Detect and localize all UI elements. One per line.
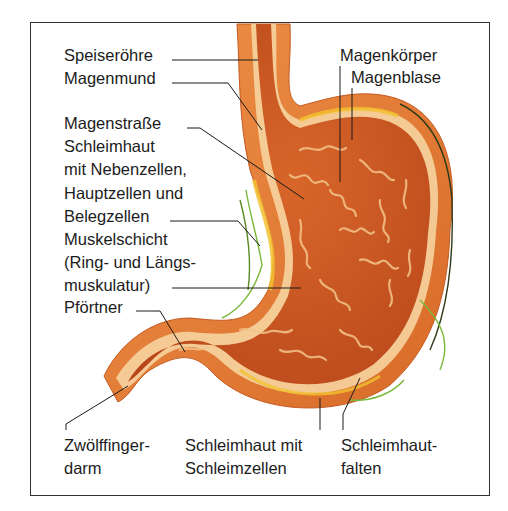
label-schleimhaut-line4: Belegzellen [64, 206, 149, 226]
label-muskel-line2: (Ring- und Längs- [64, 252, 196, 272]
label-zwoelffinger-line1: Zwölffinger- [64, 435, 150, 455]
label-schleimzellen-line1: Schleimhaut mit [185, 435, 302, 455]
label-schleimhaut-line1: Schleimhaut [64, 136, 155, 156]
label-pfoertner: Pförtner [64, 297, 123, 317]
label-muskel-line3: muskulatur) [64, 275, 150, 295]
label-schleimhaut-line2: mit Nebenzellen, [64, 159, 187, 179]
label-zwoelffinger-line2: darm [64, 458, 102, 478]
label-falten-line1: Schleimhaut- [341, 435, 437, 455]
label-schleimzellen-line2: Schleimzellen [185, 458, 287, 478]
label-magenmund: Magenmund [64, 68, 156, 88]
label-magenkoerper: Magenkörper [340, 45, 437, 65]
label-magenstrasse: Magenstraße [64, 113, 161, 133]
label-muskel-line1: Muskelschicht [64, 229, 168, 249]
label-falten-line2: falten [341, 458, 381, 478]
label-speiseroehre: Speiseröhre [64, 45, 153, 65]
label-magenblase: Magenblase [351, 67, 441, 87]
label-schleimhaut-line3: Hauptzellen und [64, 183, 183, 203]
